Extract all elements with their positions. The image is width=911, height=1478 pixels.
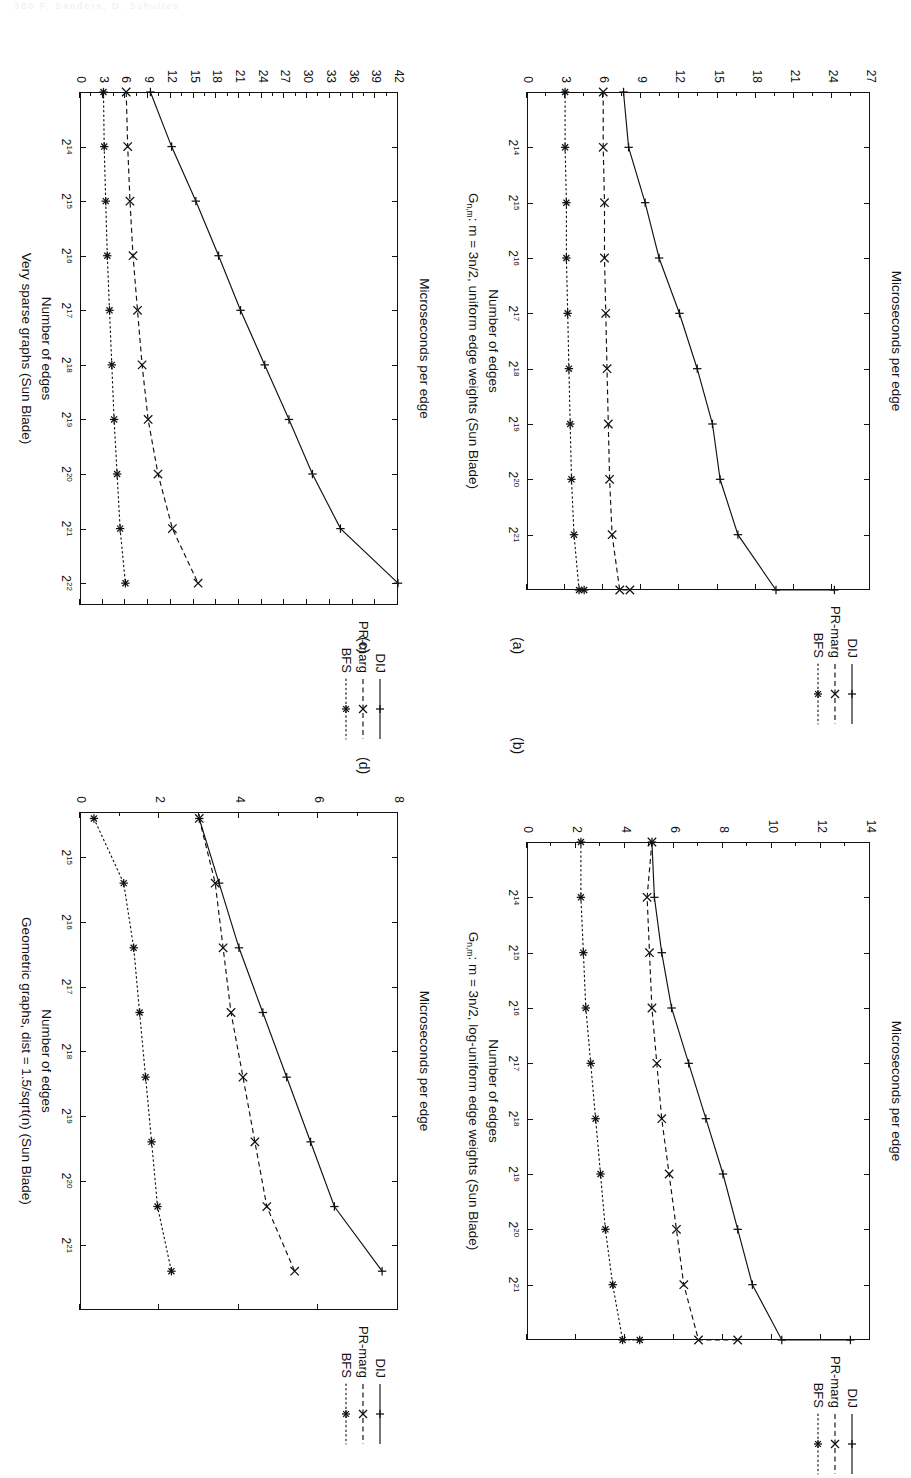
marker-plus-icon [702, 1114, 710, 1122]
marker-plus-icon [685, 1059, 693, 1067]
marker-star-icon [129, 944, 137, 952]
marker-plus-icon [641, 198, 649, 206]
marker-star-icon [116, 524, 124, 532]
series-line-bfs [581, 842, 640, 1340]
series-line-pr-marg [199, 819, 295, 1272]
marker-star-icon [636, 1336, 644, 1344]
legend-item-pr-marg[interactable]: PR-marg [827, 578, 843, 728]
marker-plus-icon [772, 586, 780, 594]
marker-plus-icon [192, 197, 200, 205]
legend-item-pr-marg[interactable]: PR-marg [355, 1298, 371, 1448]
legend-item-pr-marg[interactable]: PR-marg [355, 593, 371, 743]
series-line-pr-marg [647, 842, 738, 1340]
series-layer-b [455, 790, 910, 1350]
marker-plus-icon [748, 1280, 756, 1288]
marker-star-icon [601, 1225, 609, 1233]
marker-star-icon [120, 879, 128, 887]
chart-panel-a: 0369121518212427214215216217218219220221… [455, 40, 910, 600]
series-line-pr-marg [603, 92, 630, 590]
marker-x-icon [194, 579, 202, 587]
legend-item-dij[interactable]: DIJ [372, 593, 388, 743]
legend-label: DIJ [845, 639, 860, 659]
legend-item-dij[interactable]: DIJ [844, 1328, 860, 1478]
marker-plus-icon [667, 1004, 675, 1012]
marker-plus-icon [650, 893, 658, 901]
marker-x-icon [680, 1280, 688, 1288]
series-layer-c [8, 40, 438, 615]
marker-plus-icon [215, 879, 223, 887]
legend-sample-x-icon [827, 662, 843, 726]
legend-b: DIJPR-margBFS [800, 1328, 860, 1478]
legend-label: PR-marg [828, 1356, 843, 1408]
legend-item-pr-marg[interactable]: PR-marg [827, 1328, 843, 1478]
marker-star-icon [110, 415, 118, 423]
marker-plus-icon [259, 1008, 267, 1016]
legend-label: BFS [339, 648, 354, 673]
chart-panel-b: 02468101214214215216217218219220221Micro… [455, 790, 910, 1350]
marker-star-icon [113, 470, 121, 478]
series-line-bfs [94, 819, 172, 1272]
marker-x-icon [290, 1267, 298, 1275]
legend-item-dij[interactable]: DIJ [372, 1298, 388, 1448]
marker-star-icon [99, 88, 107, 96]
chart-panel-d: 02468215216217218219220221Microseconds p… [8, 760, 438, 1320]
marker-plus-icon [693, 364, 701, 372]
chart-panel-c: 0369121518212427303336394221421521621721… [8, 40, 438, 615]
marker-plus-icon [734, 1225, 742, 1233]
marker-star-icon [167, 1267, 175, 1275]
marker-star-icon [570, 530, 578, 538]
legend-label: DIJ [373, 1359, 388, 1379]
series-line-bfs [565, 92, 584, 590]
legend-c: DIJPR-margBFS [328, 593, 388, 743]
marker-plus-icon [214, 252, 222, 260]
legend-sample-star-icon [338, 677, 354, 741]
marker-star-icon [153, 1202, 161, 1210]
marker-plus-icon [261, 361, 269, 369]
legend-label: DIJ [845, 1389, 860, 1409]
marker-x-icon [168, 524, 176, 532]
marker-plus-icon [378, 1267, 386, 1275]
series-line-bfs [104, 92, 126, 583]
marker-star-icon [105, 306, 113, 314]
marker-plus-icon [235, 944, 243, 952]
series-layer-a [455, 40, 910, 600]
marker-star-icon [562, 254, 570, 262]
series-line-dij [624, 92, 835, 590]
legend-sample-star-icon [810, 1412, 826, 1476]
marker-star-icon [582, 1004, 590, 1012]
legend-item-bfs[interactable]: BFS [338, 593, 354, 743]
page-header-faint: 380 P. Sanders, D. Schultes [14, 1, 344, 12]
marker-star-icon [121, 579, 129, 587]
marker-plus-icon [708, 420, 716, 428]
legend-label: BFS [339, 1353, 354, 1378]
marker-x-icon [154, 470, 162, 478]
subcaption-b: (b) [510, 737, 526, 754]
legend-sample-plus-icon [372, 1382, 388, 1446]
marker-star-icon [90, 814, 98, 822]
legend-label: DIJ [373, 654, 388, 674]
marker-plus-icon [658, 948, 666, 956]
marker-star-icon [141, 1073, 149, 1081]
legend-item-dij[interactable]: DIJ [844, 578, 860, 728]
legend-label: BFS [811, 1383, 826, 1408]
subcaption-c: (c) [356, 637, 372, 653]
legend-item-bfs[interactable]: BFS [810, 1328, 826, 1478]
marker-star-icon [135, 1008, 143, 1016]
marker-star-icon [100, 142, 108, 150]
marker-plus-icon [236, 306, 244, 314]
marker-star-icon [565, 364, 573, 372]
marker-plus-icon [167, 142, 175, 150]
marker-star-icon [567, 475, 575, 483]
marker-star-icon [618, 1336, 626, 1344]
legend-item-bfs[interactable]: BFS [338, 1298, 354, 1448]
marker-star-icon [579, 948, 587, 956]
marker-star-icon [562, 198, 570, 206]
legend-sample-x-icon [355, 677, 371, 741]
legend-sample-star-icon [810, 662, 826, 726]
marker-plus-icon [146, 88, 154, 96]
marker-plus-icon [778, 1336, 786, 1344]
marker-star-icon [577, 838, 585, 846]
series-layer-d [8, 760, 438, 1320]
legend-sample-star-icon [338, 1382, 354, 1446]
legend-item-bfs[interactable]: BFS [810, 578, 826, 728]
